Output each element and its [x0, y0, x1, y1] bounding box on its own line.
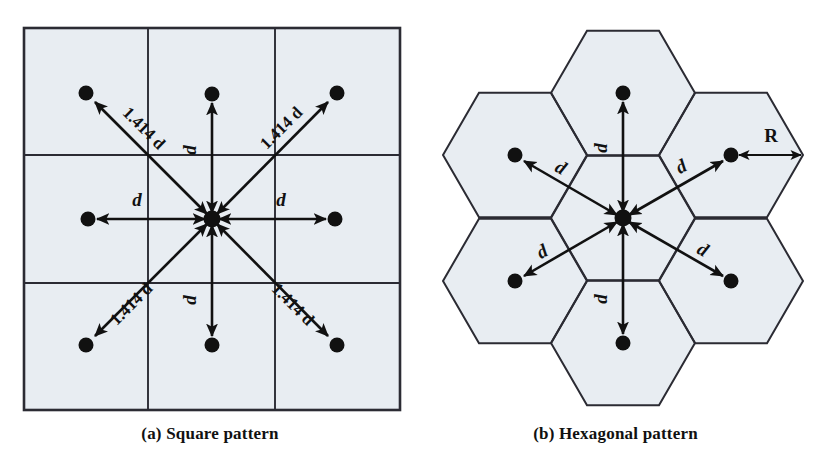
- hexagonal-pattern-panel: d d d d d d R: [443, 31, 803, 406]
- node-southeast: [330, 338, 345, 353]
- hex-node-north: [616, 86, 631, 101]
- node-south: [205, 338, 220, 353]
- label-east-d: d: [276, 189, 286, 210]
- node-northeast: [330, 86, 345, 101]
- hex-label-north-d: d: [590, 143, 611, 153]
- caption-square-pattern: (a) Square pattern: [0, 424, 420, 444]
- hex-node-northeast: [724, 148, 739, 163]
- node-west: [81, 212, 96, 227]
- hex-node-northwest: [508, 148, 523, 163]
- hex-node-southeast: [724, 274, 739, 289]
- patterns-figure-svg: d d d d 1.414 d 1.414 d 1.414 d 1.414 d: [0, 0, 821, 468]
- label-north-d: d: [179, 145, 200, 155]
- node-northwest: [79, 86, 94, 101]
- label-south-d: d: [179, 295, 200, 305]
- hex-label-radius-R: R: [764, 125, 778, 146]
- caption-hexagonal-pattern: (b) Hexagonal pattern: [410, 424, 821, 444]
- label-west-d: d: [132, 189, 142, 210]
- node-east: [328, 212, 343, 227]
- node-southwest: [79, 338, 94, 353]
- node-center: [204, 211, 221, 228]
- square-pattern-panel: d d d d 1.414 d 1.414 d 1.414 d 1.414 d: [24, 28, 400, 410]
- hex-node-center: [615, 210, 632, 227]
- hex-label-south-d: d: [590, 294, 611, 304]
- node-north: [205, 87, 220, 102]
- hex-node-southwest: [508, 274, 523, 289]
- figure-container: d d d d 1.414 d 1.414 d 1.414 d 1.414 d: [0, 0, 821, 468]
- hex-node-south: [616, 336, 631, 351]
